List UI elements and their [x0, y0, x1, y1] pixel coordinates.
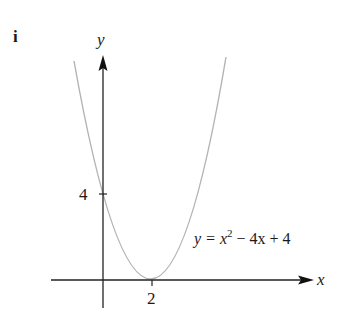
part-label: i [13, 27, 18, 46]
x-axis-label: x [316, 270, 325, 289]
parabola-figure: i y x 4 2 y = x2 − 4x + 4 [0, 0, 339, 318]
y-axis-label: y [95, 30, 105, 49]
equation-prefix: y = x [192, 230, 227, 248]
x-tick-label: 2 [147, 289, 156, 308]
equation-suffix: − 4x + 4 [233, 230, 291, 247]
curve-equation-label: y = x2 − 4x + 4 [192, 227, 291, 248]
y-tick-label: 4 [79, 185, 88, 204]
